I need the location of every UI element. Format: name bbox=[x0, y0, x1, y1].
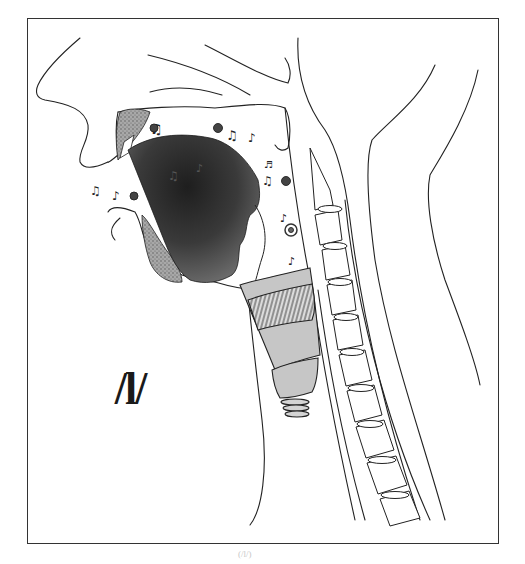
music-note-icon: ♫ bbox=[168, 169, 179, 183]
nasal-cavity-arc bbox=[205, 45, 290, 83]
vocal-tract-illustration: ♫ ♫ ♪ ♫ ♪ ♫ ♬ ♫ ♪ ♪ ♪ bbox=[0, 0, 525, 564]
disc bbox=[340, 349, 364, 356]
sound-swirl-icon bbox=[150, 124, 158, 132]
disc bbox=[328, 279, 352, 286]
chin-line bbox=[111, 218, 120, 240]
nasal-cavity-mid bbox=[150, 88, 222, 95]
disc bbox=[357, 421, 383, 428]
music-note-icon: ♫ bbox=[262, 174, 273, 188]
disc bbox=[381, 492, 409, 499]
larynx bbox=[240, 268, 320, 417]
back-of-head bbox=[428, 70, 480, 385]
vertebra bbox=[322, 245, 350, 280]
sound-swirl-icon bbox=[130, 192, 138, 200]
music-note-icon: ♬ bbox=[264, 159, 273, 170]
phoneme-label: /l/ bbox=[115, 362, 146, 415]
trachea-rings bbox=[281, 399, 309, 417]
music-note-icon: ♪ bbox=[196, 162, 203, 175]
disc bbox=[318, 206, 342, 213]
sound-swirl-icon bbox=[289, 228, 294, 233]
music-note-icon: ♪ bbox=[248, 131, 256, 145]
music-note-icon: ♫ bbox=[90, 184, 101, 198]
epiglottis bbox=[252, 205, 265, 290]
disc bbox=[323, 243, 347, 250]
disc bbox=[348, 385, 374, 392]
disc bbox=[368, 457, 396, 464]
sound-swirl-icon bbox=[282, 177, 291, 186]
music-note-icon: ♪ bbox=[112, 189, 120, 203]
vertebra bbox=[315, 210, 342, 245]
music-note-icon: ♫ bbox=[226, 128, 238, 143]
sound-swirl-icon bbox=[214, 124, 223, 133]
disc bbox=[334, 314, 358, 321]
music-note-icon: ♪ bbox=[288, 255, 295, 268]
odontoid bbox=[310, 148, 333, 210]
tongue bbox=[128, 135, 260, 282]
figure-caption: (/l/) bbox=[238, 549, 252, 559]
music-note-icon: ♪ bbox=[280, 212, 287, 225]
face-profile bbox=[36, 38, 108, 167]
